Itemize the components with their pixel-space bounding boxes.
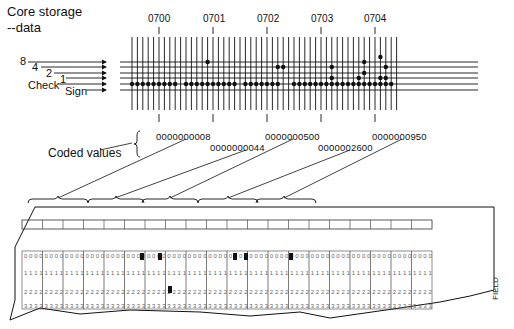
bit-arrows: [28, 62, 106, 90]
core-vertical-wires: [132, 37, 397, 110]
diagram-graphics: 0123012301230123012301230123012301230123…: [0, 0, 514, 329]
